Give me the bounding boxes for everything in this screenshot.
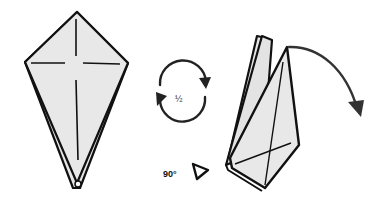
kite-shape <box>25 12 128 188</box>
turn-over-icon <box>156 60 211 121</box>
crease-line <box>83 63 120 64</box>
fold-arrow-icon <box>289 47 364 117</box>
origami-diagram <box>0 0 386 202</box>
rotation-angle-label: 90° <box>163 169 177 179</box>
folded-model <box>226 36 299 191</box>
triangle-pointer-icon <box>193 164 208 179</box>
half-turn-label: ½ <box>175 94 183 104</box>
